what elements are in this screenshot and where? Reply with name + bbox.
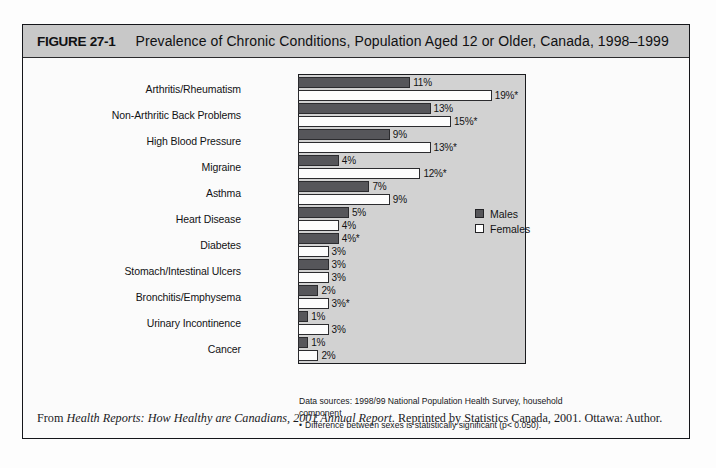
bar-value-label: 9% <box>393 194 407 205</box>
bar-rect <box>298 181 369 192</box>
bar-rect <box>298 129 390 140</box>
category-label: Urinary Incontinence <box>0 317 241 329</box>
category-label: Diabetes <box>0 239 241 251</box>
bar-group: 2%3%* <box>298 284 349 310</box>
bar-group: 13%15%* <box>298 102 477 128</box>
category-label: High Blood Pressure <box>0 135 241 147</box>
bar-females: 15%* <box>298 116 477 127</box>
figure-title: Prevalence of Chronic Conditions, Popula… <box>135 33 668 49</box>
bar-value-label: 19%* <box>495 90 518 101</box>
bar-group: 11%19%* <box>298 76 518 102</box>
bar-rect <box>298 324 329 335</box>
bar-value-label: 3% <box>332 259 346 270</box>
bar-females: 3% <box>298 246 360 257</box>
bar-females: 2% <box>298 350 335 361</box>
bar-rect <box>298 194 390 205</box>
bar-rect <box>298 77 410 88</box>
figure-header-band: FIGURE 27-1 Prevalence of Chronic Condit… <box>23 25 689 58</box>
chart-row: Diabetes4%*3% <box>23 232 689 258</box>
bar-value-label: 5% <box>352 207 366 218</box>
bar-value-label: 7% <box>372 181 386 192</box>
bar-value-label: 3% <box>332 272 346 283</box>
chart-row: High Blood Pressure9%13%* <box>23 128 689 154</box>
figure-page: FIGURE 27-1 Prevalence of Chronic Condit… <box>0 0 716 468</box>
bar-rect <box>298 220 339 231</box>
bar-value-label: 4%* <box>342 233 360 244</box>
category-label: Cancer <box>0 343 241 355</box>
bar-rect <box>298 272 329 283</box>
bar-rect <box>298 259 329 270</box>
chart-row: Non-Arthritic Back Problems13%15%* <box>23 102 689 128</box>
bar-females: 3% <box>298 272 346 283</box>
category-label: Migraine <box>0 161 241 173</box>
attribution-line: From Health Reports: How Healthy are Can… <box>37 411 662 426</box>
bar-females: 13%* <box>298 142 457 153</box>
figure-card: FIGURE 27-1 Prevalence of Chronic Condit… <box>22 24 690 439</box>
attribution-prefix: From <box>37 411 66 425</box>
bar-group: 4%*3% <box>298 232 360 258</box>
category-label: Heart Disease <box>0 213 241 225</box>
bar-value-label: 2% <box>321 285 335 296</box>
chart-row: Stomach/Intestinal Ulcers3%3% <box>23 258 689 284</box>
bar-males: 4%* <box>298 233 360 244</box>
bar-group: 9%13%* <box>298 128 457 154</box>
attribution-title: Health Reports: How Healthy are Canadian… <box>66 411 391 425</box>
bar-rect <box>298 168 420 179</box>
chart-rows: Arthritis/Rheumatism11%19%*Non-Arthritic… <box>23 74 689 364</box>
legend-item-females: Females <box>475 222 565 235</box>
category-label: Bronchitis/Emphysema <box>0 291 241 303</box>
bar-rect <box>298 337 308 348</box>
bar-males: 11% <box>298 77 518 88</box>
bar-males: 7% <box>298 181 407 192</box>
chart-row: Bronchitis/Emphysema2%3%* <box>23 284 689 310</box>
category-label: Arthritis/Rheumatism <box>0 83 241 95</box>
legend-swatch-females-icon <box>475 224 484 233</box>
bar-value-label: 4% <box>342 155 356 166</box>
chart-row: Urinary Incontinence1%3% <box>23 310 689 336</box>
bar-rect <box>298 207 349 218</box>
bar-males: 1% <box>298 337 335 348</box>
bar-value-label: 3% <box>332 246 346 257</box>
figure-number: FIGURE 27-1 <box>37 34 115 49</box>
bar-rect <box>298 90 492 101</box>
bar-males: 4% <box>298 155 447 166</box>
bar-group: 5%4% <box>298 206 366 232</box>
bar-males: 3% <box>298 259 346 270</box>
bar-value-label: 4% <box>342 220 356 231</box>
bar-group: 1%3% <box>298 310 346 336</box>
bar-rect <box>298 285 318 296</box>
bar-group: 4%12%* <box>298 154 447 180</box>
legend-item-males: Males <box>475 207 565 220</box>
chart-row: Cancer1%2% <box>23 336 689 362</box>
bar-males: 2% <box>298 285 349 296</box>
bar-value-label: 9% <box>393 129 407 140</box>
bar-rect <box>298 155 339 166</box>
bar-rect <box>298 246 329 257</box>
bar-value-label: 11% <box>413 77 432 88</box>
attribution-suffix: . Reprinted by Statistics Canada, 2001. … <box>392 411 662 425</box>
bar-rect <box>298 311 308 322</box>
source-line-1: Data sources: 1998/99 National Populatio… <box>299 396 659 408</box>
bar-females: 19%* <box>298 90 518 101</box>
bar-males: 9% <box>298 129 457 140</box>
legend-label-females: Females <box>490 223 530 235</box>
bar-females: 3% <box>298 324 346 335</box>
bar-females: 3%* <box>298 298 349 309</box>
bar-rect <box>298 298 329 309</box>
bar-females: 9% <box>298 194 407 205</box>
bar-rect <box>298 142 431 153</box>
bar-value-label: 3% <box>332 324 346 335</box>
bar-males: 1% <box>298 311 346 322</box>
bar-males: 13% <box>298 103 477 114</box>
bar-rect <box>298 233 339 244</box>
bar-value-label: 3%* <box>332 298 350 309</box>
chart-row: Migraine4%12%* <box>23 154 689 180</box>
bar-value-label: 15%* <box>454 116 477 127</box>
bar-rect <box>298 103 431 114</box>
bar-value-label: 1% <box>311 311 325 322</box>
bar-group: 1%2% <box>298 336 335 362</box>
bar-females: 12%* <box>298 168 447 179</box>
bar-females: 4% <box>298 220 366 231</box>
bar-group: 7%9% <box>298 180 407 206</box>
chart-row: Heart Disease5%4% <box>23 206 689 232</box>
